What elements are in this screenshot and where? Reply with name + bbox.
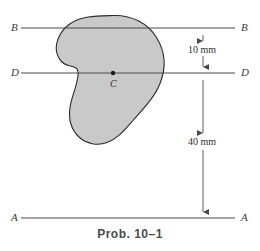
section-label-b-right: B <box>241 22 248 33</box>
dimension-label-10mm: 10 mm <box>188 45 216 55</box>
centroid-label: C <box>110 79 117 89</box>
section-label-d-left: D <box>11 67 19 78</box>
figure-drawing <box>0 0 260 251</box>
problem-figure: B D A B D A 10 mm 40 mm C Prob. 10–1 <box>0 0 260 251</box>
section-label-d-right: D <box>241 67 249 78</box>
centroid-marker <box>111 71 115 75</box>
dimension-label-40mm: 40 mm <box>188 137 216 147</box>
section-label-b-left: B <box>11 22 18 33</box>
section-label-a-right: A <box>241 212 248 223</box>
section-label-a-left: A <box>11 212 18 223</box>
figure-caption: Prob. 10–1 <box>0 228 260 240</box>
